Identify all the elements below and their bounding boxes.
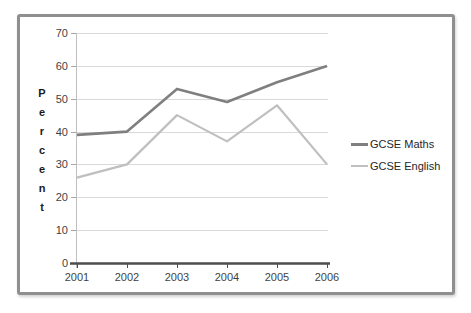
x-tick-label-2003: 2003 [152, 270, 202, 284]
x-tick-label-2002: 2002 [102, 270, 152, 284]
legend: GCSE Maths GCSE English [351, 133, 440, 177]
series-line-0 [77, 66, 327, 135]
screenshot-page: P e r c e n t 706050403020100 2001200220… [0, 0, 471, 313]
x-tick-label-2004: 2004 [202, 270, 252, 284]
legend-label-maths: GCSE Maths [370, 138, 434, 150]
maths-line-swatch-icon [351, 143, 368, 146]
series-line-1 [77, 105, 327, 177]
chart-frame: P e r c e n t 706050403020100 2001200220… [17, 14, 455, 295]
legend-item-english: GCSE English [351, 155, 440, 177]
x-tick-label-2001: 2001 [52, 270, 102, 284]
english-line-swatch-icon [351, 165, 368, 167]
legend-label-english: GCSE English [370, 160, 440, 172]
x-tick-label-2005: 2005 [252, 270, 302, 284]
legend-item-maths: GCSE Maths [351, 133, 440, 155]
x-tick-label-2006: 2006 [302, 270, 352, 284]
